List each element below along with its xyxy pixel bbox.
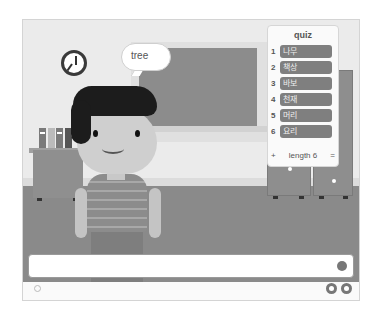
book <box>56 128 63 150</box>
list-item[interactable]: 4 천재 <box>268 92 338 108</box>
answer-input[interactable] <box>33 258 327 276</box>
speech-bubble: tree <box>121 43 171 71</box>
zoom-in-icon[interactable] <box>341 283 352 294</box>
clock-icon <box>61 50 87 76</box>
book <box>39 128 46 150</box>
list-item[interactable]: 3 바보 <box>268 76 338 92</box>
list-length: length 6 <box>268 151 338 160</box>
ask-answer-box[interactable] <box>28 254 354 278</box>
list-item[interactable]: 2 책상 <box>268 60 338 76</box>
stage[interactable]: tree quiz 1 나무 2 책상 3 바보 4 천재 5 머리 6 요리 … <box>23 20 359 282</box>
list-item[interactable]: 5 머리 <box>268 108 338 124</box>
list-item[interactable]: 6 요리 <box>268 124 338 140</box>
list-title: quiz <box>268 30 338 44</box>
book <box>48 128 55 150</box>
check-circle-icon[interactable] <box>337 261 347 271</box>
gear-icon[interactable] <box>34 285 41 292</box>
zoom-out-icon[interactable] <box>326 283 337 294</box>
list-monitor-quiz[interactable]: quiz 1 나무 2 책상 3 바보 4 천재 5 머리 6 요리 + len… <box>267 25 339 167</box>
list-footer: + length 6 = <box>268 151 338 163</box>
list-item[interactable]: 1 나무 <box>268 44 338 60</box>
resize-handle[interactable]: = <box>330 151 335 160</box>
